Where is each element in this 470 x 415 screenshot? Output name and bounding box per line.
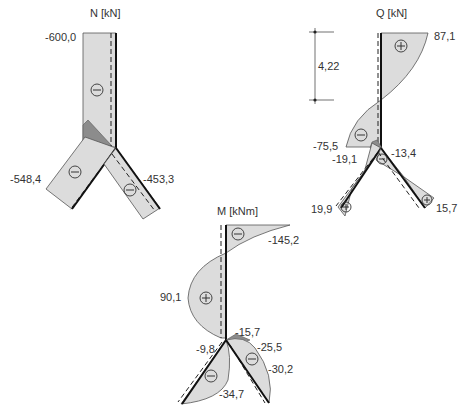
m-label-top: -145,2	[268, 234, 299, 246]
q-negative-area	[346, 100, 381, 147]
n-label-right-leg: -453,3	[143, 173, 174, 185]
q-label-right-leg-end: 15,7	[436, 202, 457, 214]
m-label-left-leg: -34,7	[219, 388, 244, 400]
q-right-leg-positive-area	[404, 177, 434, 208]
dimension-label: 4,22	[318, 60, 339, 72]
dimension-line: 4,22	[309, 28, 339, 104]
q-label-node-left: -75,5	[313, 140, 338, 152]
m-label-right-leg-top: -25,5	[257, 341, 282, 353]
m-positive-area	[188, 253, 226, 338]
m-label-right-leg: -30,2	[268, 363, 293, 375]
q-label-left-leg-top: -19,1	[332, 153, 357, 165]
m-diagram-title: M [kNm]	[217, 205, 258, 217]
m-label-left-leg-top: -9,8	[196, 343, 215, 355]
q-label-left-leg-end: 19,9	[311, 203, 332, 215]
q-positive-area	[381, 33, 428, 100]
q-label-top: 87,1	[434, 30, 455, 42]
q-diagram-title: Q [kN]	[376, 7, 407, 19]
q-label-right-leg-top: -13,4	[391, 147, 416, 159]
bending-moment-diagram: M [kNm] -145,2 90,1 -15,7 -9,8 -34,7	[160, 205, 299, 404]
m-label-span: 90,1	[160, 291, 181, 303]
n-diagram-title: N [kN]	[90, 7, 121, 19]
n-label-left-leg: -548,4	[10, 173, 41, 185]
normal-force-diagram: N [kN] -600,0 -548,4 -453,3	[10, 7, 174, 219]
internal-forces-figure: N [kN] -600,0 -548,4 -453,3 Q [kN]	[0, 0, 470, 415]
n-label-top: -600,0	[45, 31, 76, 43]
shear-force-diagram: Q [kN] 4,22 87,1 -75,5	[309, 7, 457, 216]
q-right-leg-reference-line	[378, 152, 419, 208]
